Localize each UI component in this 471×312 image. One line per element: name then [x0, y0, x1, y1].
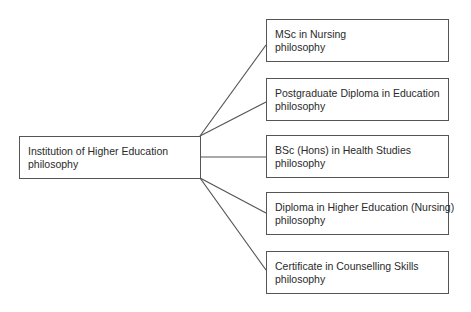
root-node: Institution of Higher Education philosop… — [19, 136, 201, 179]
connector-msc — [200, 45, 266, 136]
child-node-title: MSc in Nursing — [275, 28, 448, 41]
child-node-subtitle: philosophy — [275, 273, 448, 286]
child-node-subtitle: philosophy — [275, 41, 448, 54]
child-node-subtitle: philosophy — [275, 100, 448, 113]
root-node-title: Institution of Higher Education — [28, 145, 200, 158]
child-node-diphe: Diploma in Higher Education (Nursing) ph… — [266, 192, 449, 235]
child-node-title: Certificate in Counselling Skills — [275, 260, 448, 273]
child-node-bsc: BSc (Hons) in Health Studies philosophy — [266, 135, 449, 178]
connector-diphe — [200, 178, 266, 213]
child-node-subtitle: philosophy — [275, 157, 448, 170]
connector-cert — [200, 178, 266, 270]
child-node-msc: MSc in Nursing philosophy — [266, 19, 449, 62]
child-node-cert: Certificate in Counselling Skills philos… — [266, 251, 449, 294]
child-node-pgde: Postgraduate Diploma in Education philos… — [266, 78, 449, 121]
root-node-subtitle: philosophy — [28, 158, 200, 171]
child-node-title: Postgraduate Diploma in Education — [275, 87, 448, 100]
connector-pgde — [200, 102, 266, 136]
child-node-subtitle: philosophy — [275, 214, 448, 227]
child-node-title: Diploma in Higher Education (Nursing) — [275, 201, 448, 214]
child-node-title: BSc (Hons) in Health Studies — [275, 144, 448, 157]
